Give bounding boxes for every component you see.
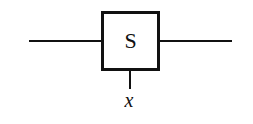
output-wire-right (159, 40, 232, 42)
control-wire-bottom (129, 70, 131, 89)
control-input-label: x (122, 90, 136, 110)
block-diagram: S x (0, 0, 253, 124)
block-label: S (124, 30, 136, 52)
input-wire-left (29, 40, 101, 42)
system-block: S (101, 11, 160, 71)
